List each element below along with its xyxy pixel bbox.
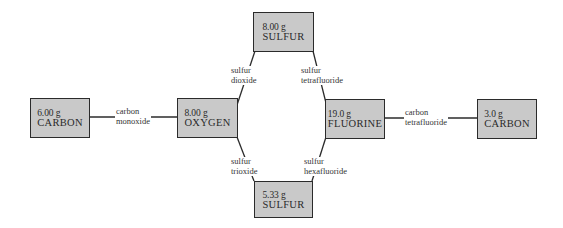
node-element: OXYGEN	[184, 118, 230, 128]
node-element: CARBON	[37, 118, 83, 128]
label-carbon-tetrafluoride: carbon tetrafluoride	[404, 108, 448, 127]
node-oxygen: 8.00 g OXYGEN	[177, 98, 238, 138]
node-sulfur-top: 8.00 g SULFUR	[253, 12, 314, 52]
label-line2: dioxide	[231, 76, 257, 86]
node-carbon-right: 3.0 g CARBON	[477, 99, 537, 139]
label-line2: trioxide	[231, 167, 257, 177]
node-element: SULFUR	[262, 200, 304, 210]
node-fluorine: 19.0 g FLUORINE	[325, 99, 385, 139]
label-sulfur-dioxide: sulfur dioxide	[230, 66, 258, 85]
label-line2: monoxide	[116, 117, 150, 127]
node-mass: 5.33 g	[262, 190, 285, 200]
node-element: CARBON	[484, 119, 530, 129]
node-element: SULFUR	[262, 32, 304, 42]
label-line2: hexafluoride	[304, 167, 347, 177]
label-line2: tetrafluoride	[301, 76, 343, 86]
node-element: FLUORINE	[328, 119, 382, 129]
label-line2: tetrafluoride	[405, 118, 447, 128]
label-sulfur-trioxide: sulfur trioxide	[230, 157, 258, 176]
label-carbon-monoxide: carbon monoxide	[115, 107, 151, 126]
node-carbon-left: 6.00 g CARBON	[30, 98, 90, 138]
label-sulfur-tetrafluoride: sulfur tetrafluoride	[300, 66, 344, 85]
node-sulfur-bottom: 5.33 g SULFUR	[254, 181, 313, 218]
label-sulfur-hexafluoride: sulfur hexafluoride	[303, 157, 348, 176]
